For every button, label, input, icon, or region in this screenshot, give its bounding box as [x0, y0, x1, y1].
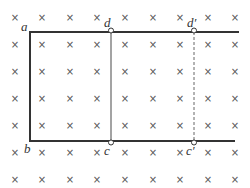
label-d-prime: d′ — [187, 15, 197, 30]
field-cross-icon: × — [149, 120, 157, 131]
field-cross-icon: × — [176, 39, 184, 50]
field-cross-icon: × — [66, 93, 74, 104]
rail-diagram-svg: ××××××××××××××××××××××××××××××××××××××××… — [0, 0, 250, 188]
field-cross-icon: × — [66, 120, 74, 131]
field-cross-icon: × — [176, 120, 184, 131]
field-cross-icon: × — [121, 93, 129, 104]
field-cross-icon: × — [38, 39, 46, 50]
field-cross-icon: × — [176, 93, 184, 104]
field-cross-icon: × — [204, 147, 212, 158]
field-cross-icon: × — [121, 174, 129, 185]
field-cross-icon: × — [38, 93, 46, 104]
field-cross-icon: × — [204, 66, 212, 77]
label-a: a — [21, 19, 28, 34]
field-cross-icon: × — [93, 66, 101, 77]
field-cross-icon: × — [231, 147, 239, 158]
field-cross-icon: × — [149, 39, 157, 50]
field-cross-icon: × — [231, 93, 239, 104]
field-cross-icon: × — [149, 12, 157, 23]
field-cross-icon: × — [231, 174, 239, 185]
field-cross-icon: × — [11, 39, 19, 50]
field-cross-icon: × — [66, 174, 74, 185]
label-b: b — [24, 141, 31, 156]
field-cross-icon: × — [66, 66, 74, 77]
field-cross-icon: × — [149, 147, 157, 158]
field-cross-icon: × — [204, 12, 212, 23]
field-cross-icon: × — [11, 66, 19, 77]
field-cross-icon: × — [204, 120, 212, 131]
field-cross-icon: × — [176, 12, 184, 23]
field-cross-icon: × — [11, 147, 19, 158]
field-cross-icon: × — [231, 12, 239, 23]
field-cross-icon: × — [66, 147, 74, 158]
field-cross-icon: × — [176, 66, 184, 77]
label-d: d — [104, 15, 111, 30]
field-cross-icon: × — [149, 66, 157, 77]
field-cross-icon: × — [11, 174, 19, 185]
label-c: c — [104, 143, 110, 158]
field-cross-icon: × — [204, 174, 212, 185]
field-cross-icon: × — [38, 66, 46, 77]
field-cross-icon: × — [121, 39, 129, 50]
field-cross-icon: × — [93, 12, 101, 23]
diagram-canvas: ××××××××××××××××××××××××××××××××××××××××… — [0, 0, 250, 188]
field-cross-icon: × — [231, 39, 239, 50]
field-cross-icon: × — [231, 66, 239, 77]
field-cross-icon: × — [38, 147, 46, 158]
field-cross-icon: × — [11, 93, 19, 104]
field-cross-icon: × — [176, 174, 184, 185]
field-cross-icon: × — [38, 120, 46, 131]
field-cross-icon: × — [121, 66, 129, 77]
field-cross-icon: × — [93, 147, 101, 158]
label-c-prime: c′ — [186, 143, 195, 158]
field-cross-icon: × — [93, 174, 101, 185]
field-cross-icon: × — [204, 39, 212, 50]
field-cross-icon: × — [231, 120, 239, 131]
field-cross-icon: × — [121, 12, 129, 23]
field-cross-icon: × — [121, 120, 129, 131]
field-cross-icon: × — [38, 174, 46, 185]
field-cross-icon: × — [93, 93, 101, 104]
field-cross-icon: × — [93, 39, 101, 50]
field-cross-icon: × — [66, 39, 74, 50]
field-cross-icon: × — [176, 147, 184, 158]
field-cross-icon: × — [149, 93, 157, 104]
field-cross-icon: × — [66, 12, 74, 23]
field-cross-icon: × — [149, 174, 157, 185]
magnetic-field-grid: ××××××××××××××××××××××××××××××××××××××××… — [11, 12, 239, 185]
field-cross-icon: × — [11, 12, 19, 23]
field-cross-icon: × — [204, 93, 212, 104]
field-cross-icon: × — [93, 120, 101, 131]
field-cross-icon: × — [11, 120, 19, 131]
field-cross-icon: × — [38, 12, 46, 23]
field-cross-icon: × — [121, 147, 129, 158]
